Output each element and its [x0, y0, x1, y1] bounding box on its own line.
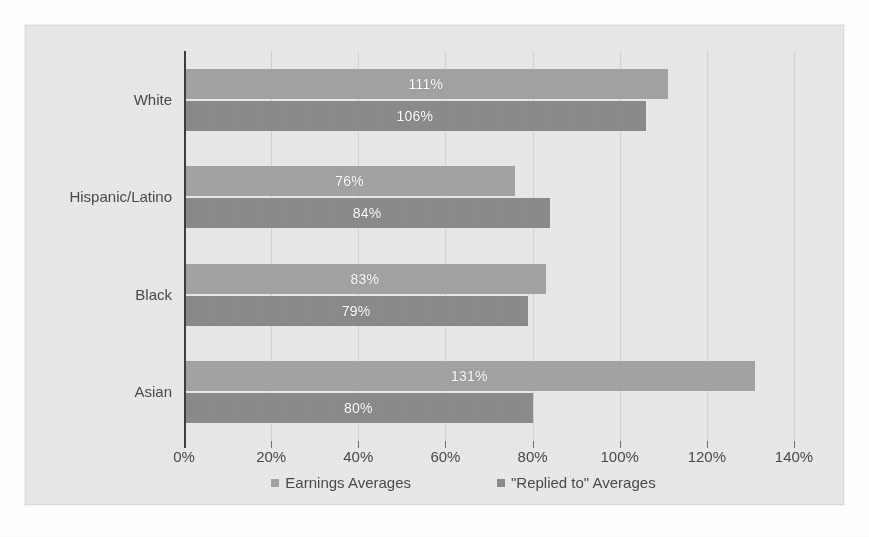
- bar-value-label: 79%: [342, 303, 371, 319]
- axis-tick: [794, 441, 795, 448]
- bar-value-label: 83%: [351, 271, 380, 287]
- category-label-hispanic-latino: Hispanic/Latino: [69, 188, 172, 205]
- axis-tick: [271, 441, 272, 448]
- category-label-white: White: [134, 91, 172, 108]
- bar-row: 111%: [184, 69, 794, 99]
- bar-row: 131%: [184, 361, 794, 391]
- category-axis: WhiteHispanic/LatinoBlackAsian: [26, 51, 184, 441]
- x-tick-label: 0%: [173, 448, 195, 465]
- legend-label: Earnings Averages: [285, 474, 411, 491]
- legend-entry-earnings[interactable]: Earnings Averages: [271, 474, 411, 491]
- axis-tick: [445, 441, 446, 448]
- x-tick-label: 80%: [518, 448, 548, 465]
- value-axis-line: [184, 51, 186, 441]
- x-tick-label: 100%: [601, 448, 639, 465]
- bar-row: 83%: [184, 264, 794, 294]
- x-tick-label: 20%: [256, 448, 286, 465]
- bar-value-label: 80%: [344, 400, 373, 416]
- plot-area: 111%106%76%84%83%79%131%80%: [184, 51, 794, 441]
- bar-row: 84%: [184, 198, 794, 228]
- axis-tick: [184, 441, 186, 448]
- chart-plot-frame: WhiteHispanic/LatinoBlackAsian 111%106%7…: [25, 25, 844, 505]
- legend-entry-replied-to[interactable]: "Replied to" Averages: [497, 474, 656, 491]
- gridline: [794, 51, 795, 441]
- x-tick-label: 140%: [775, 448, 813, 465]
- bar-value-label: 84%: [353, 205, 382, 221]
- x-tick-label: 120%: [688, 448, 726, 465]
- bar-value-label: 111%: [409, 76, 444, 92]
- bar-row: 79%: [184, 296, 794, 326]
- legend-swatch-icon: [271, 479, 279, 487]
- value-axis-labels: 0%20%40%60%80%100%120%140%: [184, 448, 794, 472]
- axis-tick: [707, 441, 708, 448]
- bar-row: 106%: [184, 101, 794, 131]
- bar-value-label: 106%: [397, 108, 434, 124]
- category-label-asian: Asian: [134, 383, 172, 400]
- legend-label: "Replied to" Averages: [511, 474, 656, 491]
- chart-legend: Earnings Averages"Replied to" Averages: [26, 474, 843, 491]
- bar-value-label: 131%: [451, 368, 488, 384]
- category-label-black: Black: [135, 286, 172, 303]
- bar-row: 80%: [184, 393, 794, 423]
- axis-tick: [620, 441, 621, 448]
- axis-tick: [533, 441, 534, 448]
- x-tick-label: 40%: [343, 448, 373, 465]
- bar-row: 76%: [184, 166, 794, 196]
- legend-swatch-icon: [497, 479, 505, 487]
- bar-value-label: 76%: [335, 173, 364, 189]
- axis-tick: [358, 441, 359, 448]
- x-tick-label: 60%: [430, 448, 460, 465]
